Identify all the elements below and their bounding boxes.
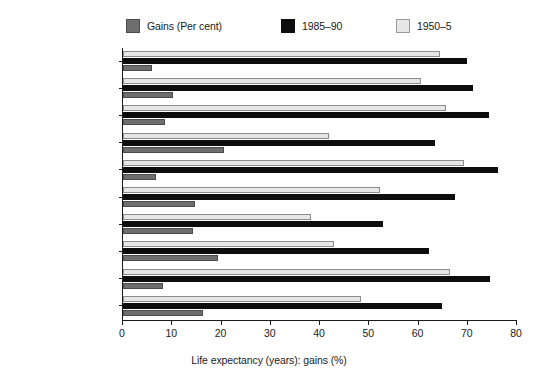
bar-1985-90	[123, 276, 490, 282]
y-axis-tick	[119, 142, 123, 143]
y-axis-tick	[119, 224, 123, 225]
bar-1950-5	[123, 160, 464, 166]
bar-1950-5	[123, 214, 311, 220]
bar-1985-90	[123, 140, 435, 146]
y-axis-tick	[119, 251, 123, 252]
bar-gains	[123, 65, 152, 71]
x-axis-tick	[516, 320, 517, 325]
bar-1985-90	[123, 248, 429, 254]
bar-1985-90	[123, 194, 455, 200]
x-axis-tick	[270, 320, 271, 325]
bar-1950-5	[123, 187, 380, 193]
bar-chart: Gains (Per cent) 1985–90 1950–5 USSROcea…	[0, 0, 538, 386]
bar-1950-5	[123, 51, 440, 57]
bar-1985-90	[123, 167, 498, 173]
x-axis-tick	[368, 320, 369, 325]
legend-item-1985-90: 1985–90	[281, 18, 342, 34]
bar-gains	[123, 228, 193, 234]
bar-gains	[123, 283, 163, 289]
bar-1950-5	[123, 241, 334, 247]
legend-label-1950-5: 1950–5	[417, 19, 451, 33]
x-axis-tick	[171, 320, 172, 325]
bar-gains	[123, 310, 203, 316]
x-axis-title: Life expectancy (years): gains (%)	[0, 354, 538, 366]
x-axis-tick-label: 30	[264, 327, 276, 339]
bar-1950-5	[123, 296, 361, 302]
legend-label-1985-90: 1985–90	[302, 19, 342, 33]
x-axis-tick-label: 0	[119, 327, 125, 339]
legend-swatch-1950-5	[396, 19, 410, 33]
x-axis-tick	[122, 320, 123, 325]
bar-1985-90	[123, 58, 467, 64]
x-axis-tick-label: 10	[165, 327, 177, 339]
bar-1985-90	[123, 303, 442, 309]
bar-1985-90	[123, 85, 473, 91]
bar-gains	[123, 201, 195, 207]
bar-1985-90	[123, 112, 489, 118]
legend-label-gains: Gains (Per cent)	[147, 19, 222, 33]
x-axis-tick-label: 20	[215, 327, 227, 339]
y-axis-tick	[119, 61, 123, 62]
legend-swatch-gains	[126, 19, 140, 33]
x-axis-tick-label: 50	[362, 327, 374, 339]
legend-item-gains: Gains (Per cent)	[126, 18, 222, 34]
y-axis-tick	[119, 278, 123, 279]
bar-1950-5	[123, 105, 446, 111]
bar-1950-5	[123, 133, 329, 139]
bar-gains	[123, 92, 173, 98]
x-axis-tick-label: 40	[313, 327, 325, 339]
x-axis-tick	[319, 320, 320, 325]
x-axis-tick-label: 60	[412, 327, 424, 339]
bar-gains	[123, 147, 224, 153]
plot-area: USSROceaniaEuropeAsiaNorth AmericaLatin …	[122, 48, 516, 320]
y-axis-tick	[119, 197, 123, 198]
x-axis-tick	[467, 320, 468, 325]
bar-1985-90	[123, 221, 383, 227]
x-axis-tick	[418, 320, 419, 325]
x-axis-tick	[221, 320, 222, 325]
x-axis-tick-label: 70	[461, 327, 473, 339]
legend-swatch-1985-90	[281, 19, 295, 33]
y-axis-tick	[119, 115, 123, 116]
y-axis-tick	[119, 169, 123, 170]
legend-item-1950-5: 1950–5	[396, 18, 451, 34]
y-axis-tick	[119, 305, 123, 306]
bar-1950-5	[123, 78, 421, 84]
y-axis-tick	[119, 88, 123, 89]
x-axis-tick-label: 80	[510, 327, 522, 339]
bar-1950-5	[123, 269, 450, 275]
bar-gains	[123, 119, 165, 125]
chart-legend: Gains (Per cent) 1985–90 1950–5	[0, 14, 538, 40]
bar-gains	[123, 174, 156, 180]
bar-gains	[123, 255, 218, 261]
